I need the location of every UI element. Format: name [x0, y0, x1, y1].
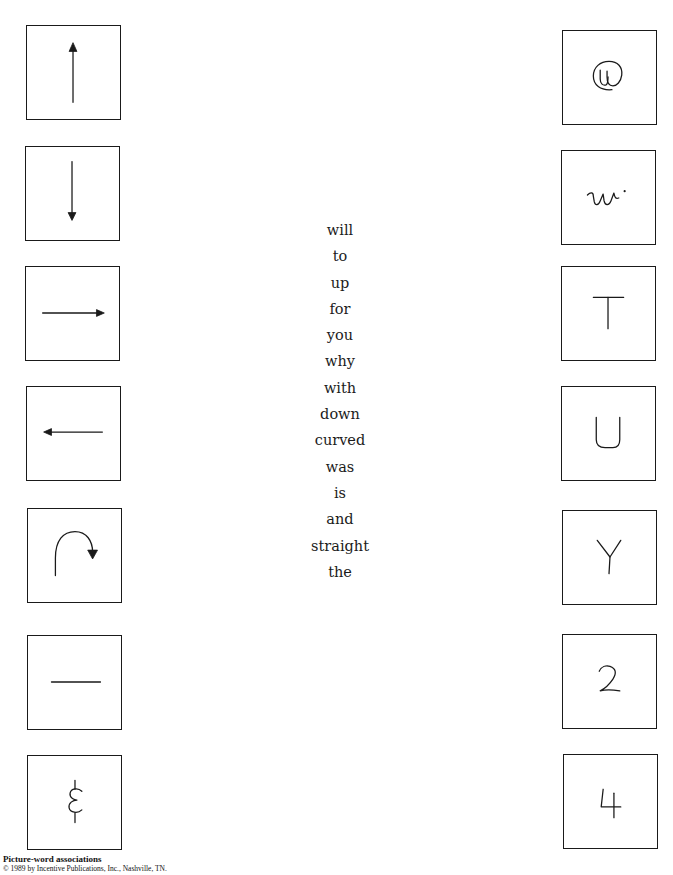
picture-box-letter-t: [561, 266, 656, 361]
picture-box-letter-u: [561, 386, 656, 481]
arrow-up-icon: [27, 26, 120, 119]
picture-box-straight-line: [27, 635, 122, 730]
picture-box-up-arrow: [26, 25, 121, 120]
word-item: is: [290, 480, 390, 506]
word-item: you: [290, 322, 390, 348]
worksheet-title: Picture-word associations: [3, 855, 167, 864]
copyright-notice: © 1989 by Incentive Publications, Inc., …: [3, 864, 167, 873]
picture-box-number-2: [562, 634, 657, 729]
word-item: straight: [290, 533, 390, 559]
word-item: was: [290, 454, 390, 480]
word-list: will to up for you why with down curved …: [290, 217, 390, 585]
word-item: will: [290, 217, 390, 243]
cursive-w-icon: [562, 151, 655, 244]
arrow-right-icon: [26, 267, 119, 360]
word-item: for: [290, 296, 390, 322]
letter-u-icon: [562, 387, 655, 480]
letter-y-icon: [563, 511, 656, 604]
word-item: why: [290, 348, 390, 374]
straight-line-icon: [28, 636, 121, 729]
word-item: the: [290, 559, 390, 585]
word-item: down: [290, 401, 390, 427]
letter-t-icon: [562, 267, 655, 360]
word-item: and: [290, 506, 390, 532]
picture-box-at-sign: [562, 30, 657, 125]
picture-box-left-arrow: [26, 386, 121, 481]
squiggle-line-icon: [28, 756, 121, 849]
at-sign-icon: [563, 31, 656, 124]
picture-box-right-arrow: [25, 266, 120, 361]
number-2-icon: [563, 635, 656, 728]
picture-box-letter-y: [562, 510, 657, 605]
arrow-down-icon: [26, 147, 119, 240]
arrow-left-icon: [27, 387, 120, 480]
number-4-icon: [564, 755, 657, 848]
picture-box-curvy-line: [27, 755, 122, 850]
word-item: with: [290, 375, 390, 401]
word-item: curved: [290, 427, 390, 453]
curved-arrow-icon: [28, 509, 121, 602]
picture-box-cursive-w: [561, 150, 656, 245]
word-item: to: [290, 243, 390, 269]
picture-box-down-arrow: [25, 146, 120, 241]
picture-box-curved-arrow: [27, 508, 122, 603]
word-item: up: [290, 270, 390, 296]
footer: Picture-word associations © 1989 by Ince…: [3, 855, 167, 873]
picture-box-number-4: [563, 754, 658, 849]
